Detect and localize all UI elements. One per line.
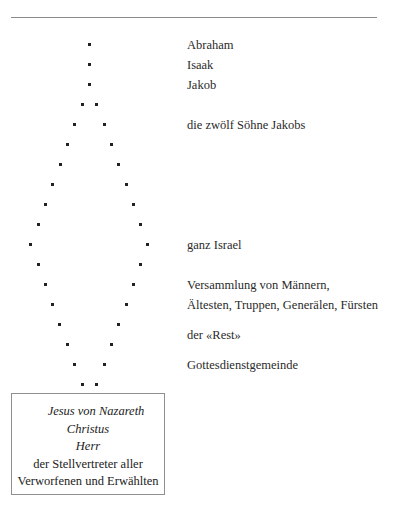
dot-marker <box>29 243 32 246</box>
dot-marker <box>51 183 54 186</box>
label-soehne: die zwölf Söhne Jakobs <box>187 115 305 135</box>
dot-marker <box>73 363 76 366</box>
dot-marker <box>37 223 40 226</box>
dot-marker <box>66 343 69 346</box>
dot-marker <box>81 383 84 386</box>
box-line-christus: Christus <box>12 421 164 439</box>
label-versammlung1: Versammlung von Männern, <box>187 275 330 295</box>
dot-marker <box>125 183 128 186</box>
dot-marker <box>58 323 61 326</box>
dot-marker <box>103 123 106 126</box>
box-line-verworfenen: Verworfenen und Erwählten <box>12 473 164 491</box>
label-abraham: Abraham <box>187 35 234 55</box>
dot-marker <box>110 343 113 346</box>
box-line-herr: Herr <box>12 438 164 456</box>
dot-marker <box>103 363 106 366</box>
dot-marker <box>117 323 120 326</box>
label-gemeinde: Gottesdienstgemeinde <box>187 355 298 375</box>
dot-marker <box>88 63 91 66</box>
dot-marker <box>59 163 62 166</box>
label-rest: der «Rest» <box>187 325 241 345</box>
dot-marker <box>139 223 142 226</box>
dot-marker <box>88 83 91 86</box>
dot-marker <box>73 123 76 126</box>
header-rule <box>11 17 377 18</box>
dot-marker <box>95 383 98 386</box>
label-isaak: Isaak <box>187 55 213 75</box>
dot-marker <box>139 263 142 266</box>
dot-marker <box>88 43 91 46</box>
label-israel: ganz Israel <box>187 235 241 255</box>
dot-marker <box>44 203 47 206</box>
label-jakob: Jakob <box>187 75 216 95</box>
dot-marker <box>132 283 135 286</box>
dot-marker <box>66 143 69 146</box>
label-versammlung2: Ältesten, Truppen, Generälen, Fürsten <box>187 295 378 315</box>
dot-marker <box>117 163 120 166</box>
dot-marker <box>44 283 47 286</box>
dot-marker <box>125 303 128 306</box>
christ-box: Jesus von Nazareth Christus Herr der Ste… <box>11 393 165 495</box>
box-line-jesus: Jesus von Nazareth <box>12 403 164 421</box>
dot-marker <box>95 103 98 106</box>
dot-marker <box>132 203 135 206</box>
box-line-stellvertreter: der Stellvertreter aller <box>12 456 164 474</box>
dot-marker <box>110 143 113 146</box>
dot-marker <box>37 263 40 266</box>
dot-marker <box>51 303 54 306</box>
dot-marker <box>146 243 149 246</box>
dot-marker <box>81 103 84 106</box>
